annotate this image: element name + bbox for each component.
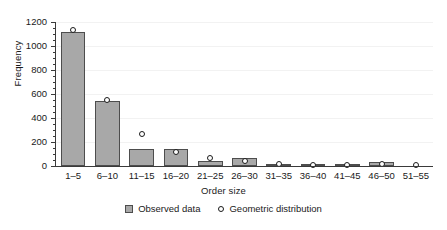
grid-line (56, 46, 433, 47)
x-axis-title: Order size (0, 185, 447, 196)
bar (95, 101, 120, 166)
grid-line (56, 22, 433, 23)
y-axis-tick-label: 200 (17, 137, 47, 147)
grid-line (56, 94, 433, 95)
chart-legend: Observed data Geometric distribution (0, 203, 447, 214)
plot-area (56, 22, 433, 166)
data-point-marker (173, 149, 179, 155)
grid-line (56, 70, 433, 71)
data-point-marker (139, 131, 145, 137)
y-axis-tick-label: 1000 (17, 41, 47, 51)
x-axis-line (56, 166, 433, 167)
bar (61, 32, 86, 166)
legend-item-geometric-distribution: Geometric distribution (218, 203, 321, 214)
y-axis-tick-label: 800 (17, 65, 47, 75)
bar (129, 149, 154, 166)
legend-item-observed-data: Observed data (125, 203, 200, 214)
y-axis-tick-label: 1200 (17, 17, 47, 27)
filled-square-icon (125, 205, 133, 213)
legend-label-geometric-distribution: Geometric distribution (229, 203, 321, 214)
data-point-marker (242, 158, 248, 164)
legend-label-observed-data: Observed data (138, 203, 200, 214)
y-axis-tick-label: 400 (17, 113, 47, 123)
y-axis-tick-label: 0 (17, 161, 47, 171)
x-axis-tick-label: 51–55 (396, 170, 436, 181)
frequency-chart: Frequency 020040060080010001200 1–56–101… (0, 0, 447, 230)
open-circle-icon (218, 206, 224, 212)
y-axis-tick-label: 600 (17, 89, 47, 99)
